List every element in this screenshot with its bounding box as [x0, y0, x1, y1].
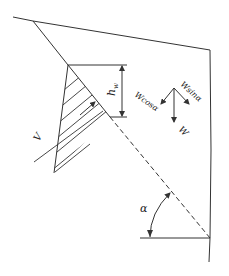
seepage-line — [34, 111, 103, 162]
seepage-label: V — [31, 130, 45, 143]
weight-label: W — [177, 124, 191, 138]
force-diagram: W Wcosα Wsinα — [133, 80, 204, 139]
angle-label: α — [140, 202, 148, 215]
hw-label: hw — [105, 83, 120, 96]
normal-force-vector — [161, 88, 174, 104]
tangent-force-label: Wsinα — [179, 80, 204, 104]
angle-arc-bottom-arrow — [147, 230, 153, 237]
normal-force-label: Wcosα — [133, 90, 161, 113]
water-wedge-hatching — [40, 60, 130, 194]
slip-plane-dashed — [110, 117, 210, 238]
slope-diagram: hw W Wcosα Wsinα V α — [0, 0, 229, 276]
seepage-line — [55, 144, 90, 172]
right-boundary-line — [209, 50, 211, 262]
wedge-left-edge — [54, 65, 68, 173]
diagram-canvas: hw W Wcosα Wsinα V α — [0, 0, 229, 276]
slope-face-line — [33, 21, 68, 65]
angle-arc — [150, 193, 170, 237]
